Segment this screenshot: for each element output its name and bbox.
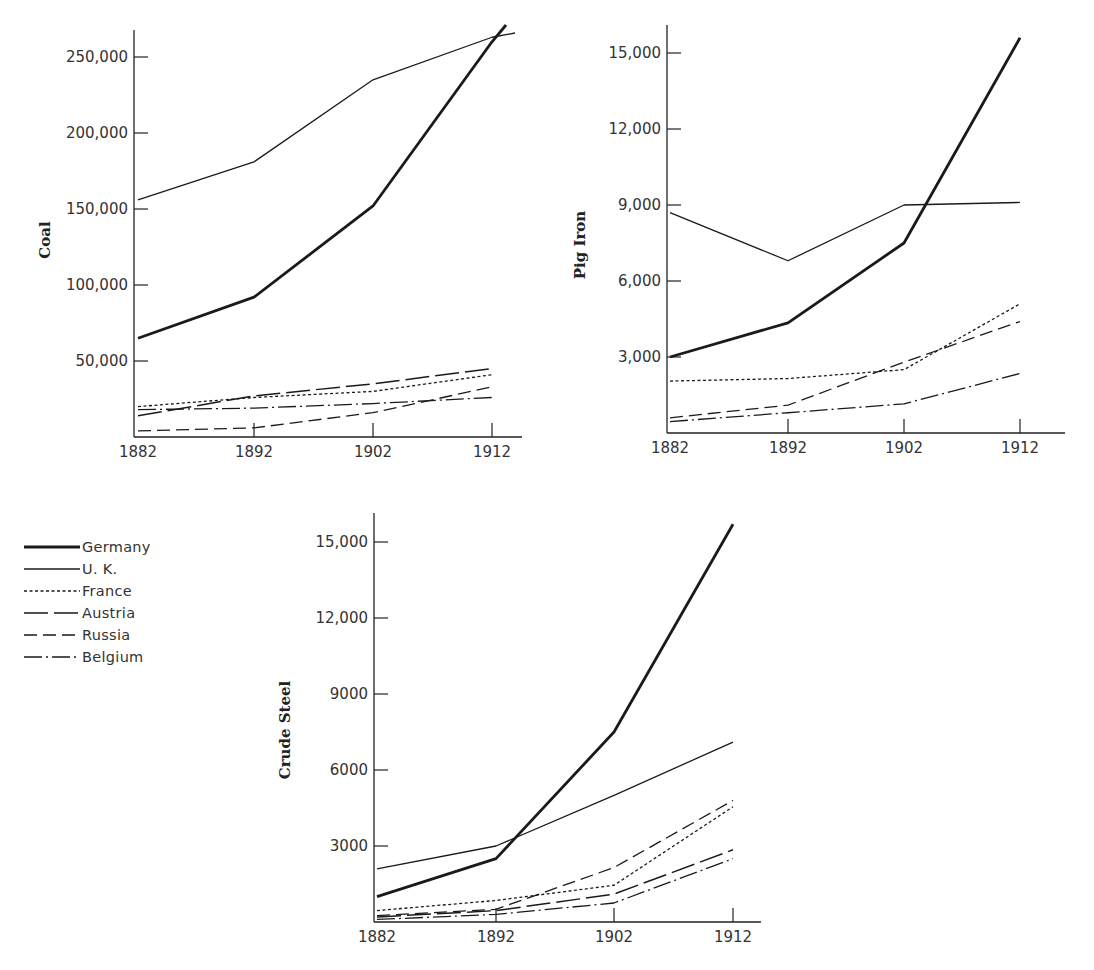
- legend-item-germany: Germany: [22, 536, 222, 558]
- x-tick-label: 1912: [714, 928, 752, 946]
- series-line-austria: [138, 369, 492, 416]
- series-line-russia: [138, 387, 492, 431]
- legend-label: Russia: [82, 627, 130, 643]
- y-axis-title: Pig Iron: [571, 211, 589, 280]
- y-tick-label: 15,000: [316, 533, 369, 551]
- legend-item-france: France: [22, 580, 222, 602]
- x-tick-label: 1892: [235, 443, 273, 461]
- line-swatch-dash-icon: [22, 630, 80, 640]
- series-line-uk: [670, 202, 1020, 260]
- series-line-uk: [377, 742, 733, 869]
- figure: 50,000100,000150,000200,000250,000188218…: [0, 0, 1094, 970]
- legend-label: Austria: [82, 605, 135, 621]
- series-line-belgium: [670, 373, 1020, 421]
- y-tick-label: 50,000: [76, 352, 129, 370]
- legend-label: U. K.: [82, 561, 117, 577]
- series-line-belgium: [138, 397, 492, 409]
- y-axis-title: Coal: [36, 221, 54, 259]
- y-tick-label: 9,000: [618, 196, 661, 214]
- legend-item-belgium: Belgium: [22, 646, 222, 668]
- x-tick-label: 1892: [769, 439, 807, 457]
- y-tick-label: 6,000: [618, 272, 661, 290]
- x-tick-label: 1892: [477, 928, 515, 946]
- y-tick-label: 3000: [330, 837, 368, 855]
- legend-item-austria: Austria: [22, 602, 222, 624]
- legend-label: France: [82, 583, 132, 599]
- legend-label: Belgium: [82, 649, 144, 665]
- y-tick-label: 9000: [330, 685, 368, 703]
- series-line-germany: [670, 38, 1020, 357]
- line-swatch-dashdot-icon: [22, 652, 80, 662]
- x-tick-label: 1912: [473, 443, 511, 461]
- y-tick-label: 12,000: [316, 609, 369, 627]
- x-tick-label: 1912: [1001, 439, 1039, 457]
- crude-steel-chart: 30006000900012,00015,0001882189219021912…: [276, 513, 761, 946]
- x-tick-label: 1902: [885, 439, 923, 457]
- line-swatch-solid-icon: [22, 564, 80, 574]
- y-tick-label: 100,000: [66, 276, 128, 294]
- x-tick-label: 1882: [358, 928, 396, 946]
- x-tick-label: 1882: [651, 439, 689, 457]
- legend: Germany U. K. France Austria Russia Belg…: [22, 536, 222, 668]
- y-tick-label: 15,000: [609, 44, 662, 62]
- x-tick-label: 1882: [119, 443, 157, 461]
- series-line-uk: [138, 33, 515, 200]
- x-tick-label: 1902: [595, 928, 633, 946]
- series-line-austria: [377, 850, 733, 917]
- legend-label: Germany: [82, 539, 151, 555]
- y-tick-label: 12,000: [609, 120, 662, 138]
- line-swatch-thick-icon: [22, 542, 80, 552]
- line-swatch-dotted-icon: [22, 586, 80, 596]
- y-tick-label: 200,000: [66, 124, 128, 142]
- y-tick-label: 150,000: [66, 200, 128, 218]
- y-tick-label: 250,000: [66, 48, 128, 66]
- y-tick-label: 6000: [330, 761, 368, 779]
- y-tick-label: 3,000: [618, 348, 661, 366]
- legend-item-uk: U. K.: [22, 558, 222, 580]
- series-line-france: [138, 375, 492, 407]
- series-line-russia: [670, 322, 1020, 418]
- coal-chart: 50,000100,000150,000200,000250,000188218…: [0, 0, 1094, 970]
- series-line-germany: [377, 524, 733, 896]
- coal-chart: 50,000100,000150,000200,000250,000188218…: [36, 25, 522, 461]
- legend-item-russia: Russia: [22, 624, 222, 646]
- pig-iron-chart: 3,0006,0009,00012,00015,0001882189219021…: [571, 25, 1065, 457]
- y-axis-title: Crude Steel: [276, 680, 294, 779]
- line-swatch-longdash-icon: [22, 608, 80, 618]
- x-tick-label: 1902: [354, 443, 392, 461]
